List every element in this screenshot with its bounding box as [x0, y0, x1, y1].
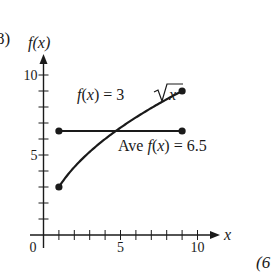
y-axis-label: f(x) [28, 34, 50, 52]
y-axis-arrow-icon [40, 54, 48, 64]
corner-label: (6 [256, 253, 271, 272]
part-label: 8) [0, 29, 10, 48]
curve-label: f(x) = 3 [77, 86, 124, 104]
average-endpoint-dot [55, 127, 62, 134]
x-tick-label: 0 [30, 240, 37, 255]
curve-endpoint-dot [179, 87, 186, 94]
average-endpoint-dot [179, 127, 186, 134]
x-tick-label: 5 [117, 240, 124, 255]
curve-endpoint-dot [55, 183, 62, 190]
x-axis-label: x [223, 226, 231, 243]
chart-area: 0510510 8) (6 f(x) x f(x) = 3 x Ave f(x)… [0, 0, 274, 276]
svg-text:x: x [168, 86, 176, 103]
y-tick-label: 10 [24, 68, 38, 83]
x-tick-label: 10 [191, 240, 205, 255]
y-tick-label: 5 [31, 148, 38, 163]
x-axis-arrow-icon [210, 231, 220, 239]
average-label: Ave f(x) = 6.5 [118, 137, 207, 155]
y-axis-label-text: f(x) [28, 34, 50, 52]
